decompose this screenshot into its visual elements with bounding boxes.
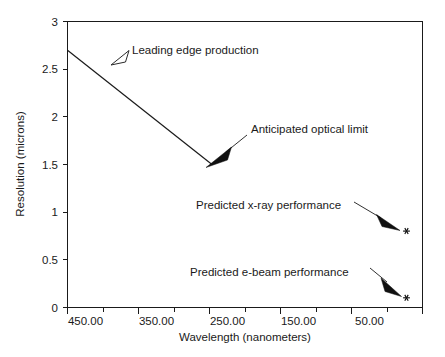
solid-arrow-icon (381, 278, 402, 297)
solid-arrow-icon (377, 215, 401, 231)
solid-arrow-icon (206, 147, 232, 168)
figure-container: 0 0.5 1 1.5 2 2.5 3 450.00 350.00 250 (0, 0, 445, 357)
annotation-label-predicted-e-beam-performance: Predicted e-beam performance (190, 266, 349, 278)
y-tick-label-2.5: 2.5 (42, 63, 58, 75)
y-tick-label-2: 2 (52, 111, 58, 123)
plot-frame (68, 22, 423, 308)
y-axis-ticks (63, 22, 68, 308)
x-axis-title: Wavelength (nanometers) (179, 331, 311, 343)
y-tick-label-0.5: 0.5 (42, 254, 58, 266)
annotation-label-predicted-x-ray-performance: Predicted x-ray performance (196, 199, 341, 211)
x-tick-label-450: 450.00 (68, 315, 103, 327)
annotation-label-leading-edge-production: Leading edge production (132, 44, 259, 56)
x-tick-label-50: 50.00 (355, 315, 384, 327)
series-predicted-x-ray-performance-marker (403, 228, 410, 234)
hollow-arrow-icon (111, 51, 129, 66)
y-tick-label-0: 0 (52, 302, 58, 314)
annotation-predicted-e-beam-performance: Predicted e-beam performance (190, 266, 402, 297)
annotation-anticipated-optical-limit: Anticipated optical limit (206, 123, 369, 168)
annotation-label-anticipated-optical-limit: Anticipated optical limit (251, 123, 369, 135)
x-axis-tick-labels: 450.00 350.00 250.00 150.00 50.00 (68, 315, 384, 327)
y-axis-tick-labels: 0 0.5 1 1.5 2 2.5 3 (42, 16, 58, 314)
y-axis-title: Resolution (microns) (14, 111, 26, 217)
y-tick-label-1: 1 (52, 206, 58, 218)
series-leading-edge-production-line (68, 50, 213, 164)
x-axis-ticks (68, 308, 423, 314)
series-predicted-e-beam-performance-marker (403, 295, 410, 301)
annotation-leading-edge-production: Leading edge production (111, 44, 259, 65)
y-tick-label-1.5: 1.5 (42, 159, 58, 171)
x-tick-label-250: 250.00 (210, 315, 245, 327)
annotation-predicted-x-ray-performance: Predicted x-ray performance (196, 199, 400, 231)
x-tick-label-350: 350.00 (139, 315, 174, 327)
x-tick-label-150: 150.00 (281, 315, 316, 327)
y-tick-label-3: 3 (52, 16, 58, 28)
chart-canvas: 0 0.5 1 1.5 2 2.5 3 450.00 350.00 250 (0, 0, 445, 357)
